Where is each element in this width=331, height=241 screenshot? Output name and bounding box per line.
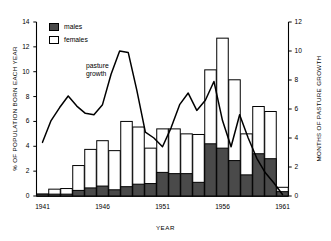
legend-label-males: males xyxy=(64,23,82,30)
y-axis-right-tick-label: 10 xyxy=(295,47,311,54)
y-axis-left-tick-label: 2 xyxy=(14,167,30,174)
bar-segment-males xyxy=(61,194,73,196)
bar-stack-total xyxy=(109,151,121,196)
bar-segment-males xyxy=(97,186,109,196)
y-axis-right-tick-label: 12 xyxy=(295,18,311,25)
legend-swatch-females xyxy=(49,36,59,44)
x-axis-tick-label: 1961 xyxy=(263,203,303,210)
y-axis-right-tick-label: 2 xyxy=(295,163,311,170)
annotation-pasture-growth-line2: growth xyxy=(86,70,106,78)
x-axis-tick-label: 1956 xyxy=(203,203,243,210)
x-axis-tick-label: 1941 xyxy=(23,203,63,210)
bar-segment-males xyxy=(49,194,61,196)
bar-segment-males xyxy=(229,161,241,196)
y-axis-right-tick-label: 8 xyxy=(295,76,311,83)
bar-segment-males xyxy=(157,172,169,196)
bar-segment-males xyxy=(193,182,205,196)
y-axis-right-title: MONTHS OF PASTURE GROWTH xyxy=(315,29,322,189)
chart-figure: % OF POPULATION BORN EACH YEAR MONTHS OF… xyxy=(0,0,331,241)
bar-segment-males xyxy=(217,148,229,196)
y-axis-left-tick-label: 12 xyxy=(14,43,30,50)
bar-segment-males xyxy=(181,174,193,196)
bar-segment-males xyxy=(169,174,181,196)
bar-stack-total xyxy=(121,121,133,196)
x-axis-tick-label: 1951 xyxy=(143,203,183,210)
bar-segment-males xyxy=(37,194,49,196)
bar-segment-males xyxy=(241,175,253,196)
y-axis-left-title: % OF POPULATION BORN EACH YEAR xyxy=(11,29,18,189)
bar-segment-males xyxy=(145,184,157,196)
y-axis-right-tick-label: 0 xyxy=(295,192,311,199)
y-axis-right-tick-label: 6 xyxy=(295,105,311,112)
bar-segment-males xyxy=(121,187,133,196)
bar-segment-males xyxy=(133,184,145,196)
bars-group xyxy=(37,38,289,196)
y-axis-left-tick-label: 8 xyxy=(14,93,30,100)
x-axis-title: YEAR xyxy=(0,224,331,231)
y-axis-left-tick-label: 4 xyxy=(14,142,30,149)
legend-swatch-males xyxy=(49,23,59,31)
y-axis-left-tick-label: 14 xyxy=(14,18,30,25)
x-axis-tick-label: 1946 xyxy=(83,203,123,210)
y-axis-left-tick-label: 6 xyxy=(14,117,30,124)
bar-segment-males xyxy=(205,144,217,196)
bar-segment-males xyxy=(109,190,121,196)
bar-segment-males xyxy=(265,159,277,196)
y-axis-right-tick-label: 4 xyxy=(295,134,311,141)
annotation-pasture-growth-line1: pasture xyxy=(86,62,109,70)
y-axis-left-tick-label: 10 xyxy=(14,68,30,75)
bar-segment-males xyxy=(85,188,97,196)
bar-segment-males xyxy=(73,190,85,196)
y-axis-left-tick-label: 0 xyxy=(14,192,30,199)
legend-label-females: females xyxy=(64,36,88,43)
